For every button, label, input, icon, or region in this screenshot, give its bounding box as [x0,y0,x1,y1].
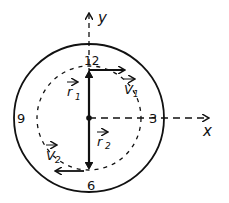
r2-label: r 2 [97,132,111,151]
clock-number-9: 9 [17,111,25,126]
r1-label-letter: r [67,84,74,99]
clock-number-12: 12 [84,54,99,68]
clock-number-6: 6 [87,178,95,193]
v1-label: V 1 [124,79,139,99]
r2-label-letter: r [97,134,104,149]
v2-label-subscript: 2 [55,155,61,165]
clock-number-3: 3 [149,111,157,126]
r1-label: r 1 [67,82,81,102]
v1-label-subscript: 1 [133,89,139,99]
x-axis-label: x [202,122,212,140]
y-axis-label: y [97,9,108,27]
r2-label-subscript: 2 [105,141,111,151]
clock-vector-diagram: y x 12 3 6 9 r 1 V 1 r 2 V 2 [0,0,229,203]
v2-label: V 2 [46,145,61,165]
r1-label-subscript: 1 [75,92,81,102]
